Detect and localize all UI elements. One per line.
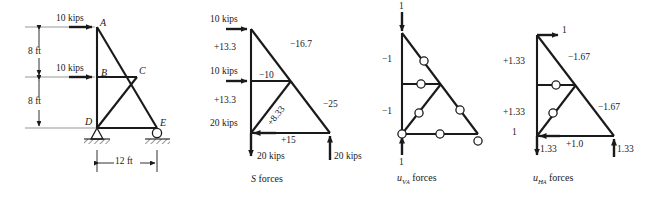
truss-members-uha (537, 35, 614, 136)
node-label-E: E (160, 118, 166, 128)
load-label-B-geometry: 10 kips (56, 64, 84, 74)
zero-force-markers-uha (549, 81, 560, 117)
uha-member-force-BD: +1.33 (503, 108, 525, 118)
dimension-label-12ft: 12 ft (115, 157, 133, 167)
uha-member-force-AC: −1.67 (568, 53, 590, 63)
uva-load-label-top: 1 (399, 2, 404, 12)
uha-load-label-top: 1 (562, 26, 567, 36)
panel-uva-forces (398, 12, 482, 155)
node-label-C: C (139, 66, 146, 76)
s-member-force-CE: −25 (323, 100, 338, 110)
caption-uva-forces: uVA forces (397, 173, 437, 186)
s-member-force-BD: +13.3 (214, 96, 236, 106)
node-label-D: D (85, 117, 92, 127)
s-member-force-BC: −10 (259, 71, 274, 81)
s-load-label-A: 10 kips (210, 15, 238, 25)
node-label-A: A (100, 18, 106, 28)
load-label-A-geometry: 10 kips (56, 14, 84, 24)
uva-member-force-AB: −1 (382, 55, 392, 65)
load-arrows-s (226, 29, 330, 160)
uva-member-force-BD: −1 (382, 107, 392, 117)
caption-s-prefix: S (251, 173, 256, 184)
uha-load-label-left: 1 (512, 128, 517, 138)
uha-member-force-AB: +1.33 (503, 57, 525, 67)
uha-reaction-E-up: 1.33 (617, 145, 634, 155)
caption-uha-subsub: A (543, 179, 546, 185)
s-load-label-D-down: 20 kips (257, 152, 285, 162)
s-member-force-DE: +15 (281, 136, 296, 146)
truss-figure: 10 kips 10 kips A B C D E 8 ft 8 ft 12 f… (0, 0, 660, 198)
caption-s-forces: S forces (251, 174, 283, 184)
uva-load-label-bottom: 1 (399, 158, 404, 168)
truss-members-uva (402, 33, 478, 134)
s-load-label-B: 10 kips (210, 67, 238, 77)
dimension-label-8ft-upper: 8 ft (28, 47, 41, 57)
zero-force-markers-uva (398, 57, 482, 145)
uha-member-force-DE: +1.0 (566, 140, 583, 150)
pin-support-D (84, 128, 110, 144)
uha-reaction-D-down: 1.33 (540, 145, 557, 155)
uha-member-force-CE: −1.67 (598, 103, 620, 113)
s-member-force-AC: −16.7 (290, 40, 312, 50)
panel-s-forces (226, 29, 330, 160)
caption-uha-forces: uHA forces (533, 173, 573, 186)
s-member-force-AB: +13.3 (214, 43, 236, 53)
node-label-B: B (101, 68, 107, 78)
caption-s-suffix: forces (259, 173, 283, 184)
roller-support-E (145, 128, 170, 144)
s-load-label-D-left: 20 kips (210, 119, 238, 129)
caption-uha-suffix: forces (549, 172, 573, 183)
s-load-label-E-up: 20 kips (334, 152, 362, 162)
panel-geometry (25, 27, 170, 172)
dimension-label-8ft-lower: 8 ft (28, 97, 41, 107)
caption-uva-suffix: forces (412, 172, 436, 183)
caption-uva-subsub: A (406, 179, 409, 185)
